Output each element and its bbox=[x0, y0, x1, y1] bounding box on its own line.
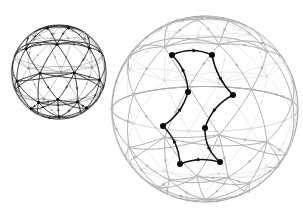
graph-node bbox=[168, 37, 171, 40]
graph-node bbox=[42, 98, 45, 101]
graph-node bbox=[58, 26, 61, 29]
graph-node bbox=[57, 115, 60, 118]
graph-node bbox=[88, 46, 91, 49]
graph-node bbox=[39, 72, 42, 75]
graph-node bbox=[78, 113, 81, 116]
graph-node bbox=[247, 189, 250, 192]
highlight-node bbox=[209, 52, 215, 58]
graph-node bbox=[27, 67, 30, 70]
graph-node bbox=[217, 133, 220, 136]
graph-node bbox=[265, 75, 268, 78]
graph-node bbox=[128, 146, 131, 149]
graph-node bbox=[39, 113, 42, 116]
graph-node bbox=[98, 78, 101, 81]
highlight-node bbox=[202, 125, 208, 131]
graph-node bbox=[284, 63, 287, 66]
graph-node bbox=[196, 41, 199, 44]
graph-node bbox=[168, 22, 171, 25]
graph-node bbox=[291, 115, 294, 118]
highlight-node bbox=[177, 161, 183, 167]
graph-node bbox=[250, 88, 253, 91]
graph-node bbox=[32, 32, 35, 35]
highlight-node bbox=[185, 89, 191, 95]
graph-node bbox=[218, 172, 221, 175]
graph-node bbox=[163, 170, 166, 173]
graph-node bbox=[168, 178, 171, 181]
graph-node bbox=[48, 43, 51, 46]
graph-node bbox=[73, 71, 76, 74]
graph-node bbox=[46, 27, 49, 30]
figure-root bbox=[0, 0, 303, 221]
graph-node bbox=[110, 107, 113, 110]
graph-node bbox=[250, 127, 253, 130]
graph-node bbox=[55, 43, 58, 46]
graph-node bbox=[203, 198, 206, 201]
graph-node bbox=[157, 29, 160, 32]
graph-node bbox=[60, 71, 63, 74]
graph-node bbox=[265, 140, 268, 143]
graph-node bbox=[132, 93, 135, 96]
graph-node bbox=[247, 26, 250, 29]
graph-node bbox=[132, 122, 135, 125]
graph-node bbox=[67, 26, 70, 29]
graph-node bbox=[163, 45, 166, 48]
graph-node bbox=[247, 182, 250, 185]
graph-node bbox=[91, 66, 94, 69]
graph-node bbox=[218, 82, 221, 85]
graph-node bbox=[69, 42, 72, 45]
graph-node bbox=[195, 18, 198, 21]
graph-node bbox=[168, 193, 171, 196]
graph-node bbox=[227, 39, 230, 42]
graph-node bbox=[128, 69, 131, 72]
graph-node bbox=[128, 159, 131, 162]
graph-node bbox=[30, 107, 33, 110]
graph-node bbox=[83, 31, 86, 34]
graph-node bbox=[227, 19, 230, 22]
highlight-node bbox=[160, 123, 166, 129]
graph-node bbox=[196, 197, 199, 200]
graph-node bbox=[187, 130, 190, 133]
graph-node bbox=[204, 17, 207, 20]
graph-node bbox=[291, 100, 294, 103]
graph-node bbox=[15, 79, 18, 82]
graph-node bbox=[56, 98, 59, 101]
highlight-node bbox=[230, 92, 236, 98]
graph-node bbox=[227, 196, 230, 199]
graph-node bbox=[85, 106, 88, 109]
graph-node bbox=[265, 165, 268, 168]
graph-node bbox=[24, 47, 27, 50]
graph-node bbox=[102, 56, 105, 59]
graph-node bbox=[128, 56, 131, 59]
graph-node bbox=[84, 37, 87, 40]
graph-node bbox=[195, 174, 198, 177]
graph-node bbox=[247, 33, 250, 36]
graph-node bbox=[163, 79, 166, 82]
graph-node bbox=[77, 97, 80, 100]
graph-node bbox=[265, 50, 268, 53]
graph-node bbox=[13, 58, 16, 61]
graph-node bbox=[33, 38, 36, 41]
graph-node bbox=[37, 101, 40, 104]
highlight-node bbox=[169, 52, 175, 58]
graph-node bbox=[284, 152, 287, 155]
graph-node bbox=[17, 90, 20, 93]
graph-node bbox=[76, 100, 79, 103]
graph-node bbox=[100, 89, 103, 92]
spherical-graph-figure bbox=[0, 0, 303, 221]
graph-node bbox=[157, 185, 160, 188]
highlight-node bbox=[217, 159, 223, 165]
graph-node bbox=[163, 136, 166, 139]
graph-node bbox=[217, 43, 220, 46]
graph-node bbox=[227, 176, 230, 179]
